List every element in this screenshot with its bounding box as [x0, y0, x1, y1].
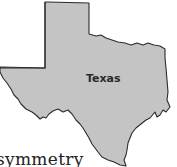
texas-shape [0, 2, 170, 166]
region-label: Texas [86, 72, 121, 85]
caption-text: symmetry [0, 149, 84, 167]
west-boundary-line [0, 2, 45, 68]
